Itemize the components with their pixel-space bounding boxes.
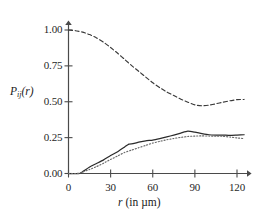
dashed-upper-curve — [69, 30, 245, 106]
x-tick-label: 120 — [222, 181, 252, 193]
x-axis-title-symbol: r — [118, 196, 122, 208]
axes — [69, 24, 249, 174]
data-series-group — [69, 30, 245, 174]
x-tick-label: 0 — [54, 181, 84, 193]
y-tick-label: 0.50 — [33, 95, 63, 107]
y-tick-label: 0.00 — [33, 167, 63, 179]
x-tick-label: 90 — [180, 181, 210, 193]
y-axis-title-arg: (r) — [21, 85, 33, 97]
y-axis-title-base: P — [10, 85, 17, 97]
x-axis-title: r(in µm) — [118, 196, 161, 208]
chart-figure: 0.000.250.500.751.00 0306090120 Pij(r) r… — [0, 0, 272, 218]
dotted-lower-curve — [69, 136, 245, 174]
x-tick-label: 60 — [138, 181, 168, 193]
y-tick-label: 1.00 — [33, 23, 63, 35]
x-tick-label: 30 — [96, 181, 126, 193]
y-tick-label: 0.75 — [33, 59, 63, 71]
y-axis-title: Pij(r) — [10, 85, 34, 99]
y-tick-label: 0.25 — [33, 131, 63, 143]
x-axis-title-units: (in µm) — [125, 196, 160, 208]
